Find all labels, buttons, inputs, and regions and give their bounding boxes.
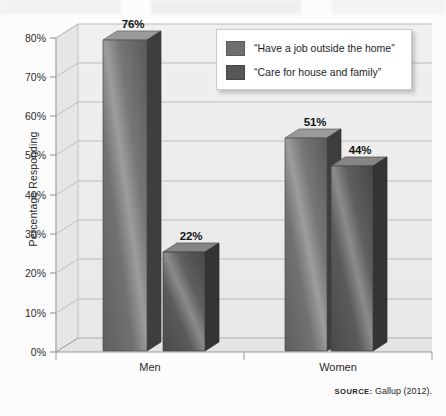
source-kicker: SOURCE: — [335, 387, 373, 396]
bar-men-have-a-job[interactable] — [103, 31, 161, 351]
x-tick-marks — [56, 352, 432, 360]
bar-front-face — [285, 138, 327, 351]
bar-side-face — [205, 243, 219, 351]
bar-side-face — [373, 157, 387, 351]
y-tick-label-0: 0% — [0, 346, 46, 358]
bar-front-face — [163, 252, 205, 351]
y-tick-label-60: 60% — [0, 110, 46, 122]
data-label-women-care-for-house: 44% — [330, 144, 390, 156]
y-tick-label-80: 80% — [0, 32, 46, 44]
legend-item-care-for-house[interactable]: “Care for house and family” — [226, 62, 381, 82]
y-tick-label-30: 30% — [0, 228, 46, 240]
y-tick-label-20: 20% — [0, 267, 46, 279]
y-tick-label-10: 10% — [0, 307, 46, 319]
data-label-men-have-a-job: 76% — [103, 18, 163, 30]
x-category-label-men: Men — [90, 361, 210, 373]
x-category-label-women: Women — [278, 361, 398, 373]
bar-front-face — [103, 40, 147, 351]
bar-front-face — [331, 166, 373, 351]
bar-men-care-for-house[interactable] — [163, 243, 219, 351]
legend-label: “Have a job outside the home” — [254, 42, 395, 54]
bar-side-face — [147, 31, 161, 351]
legend-label: “Care for house and family” — [254, 66, 381, 78]
data-label-women-have-a-job: 51% — [285, 116, 345, 128]
source-text: Gallup (2012). — [375, 386, 432, 396]
legend-swatch-icon — [226, 41, 245, 56]
data-label-men-care-for-house: 22% — [161, 230, 221, 242]
y-tick-label-70: 70% — [0, 71, 46, 83]
source-note: SOURCE: Gallup (2012). — [0, 386, 432, 396]
legend-item-have-a-job[interactable]: “Have a job outside the home” — [226, 38, 395, 58]
y-tick-marks — [50, 38, 56, 352]
legend-swatch-icon — [226, 65, 245, 80]
bar-women-care-for-house[interactable] — [331, 157, 387, 351]
y-tick-label-40: 40% — [0, 189, 46, 201]
y-tick-label-50: 50% — [0, 149, 46, 161]
chart-legend: “Have a job outside the home” “Care for … — [216, 29, 412, 90]
chart-screenshot: Percentage Responding 80% 70% 60% 50% 40… — [0, 0, 446, 416]
